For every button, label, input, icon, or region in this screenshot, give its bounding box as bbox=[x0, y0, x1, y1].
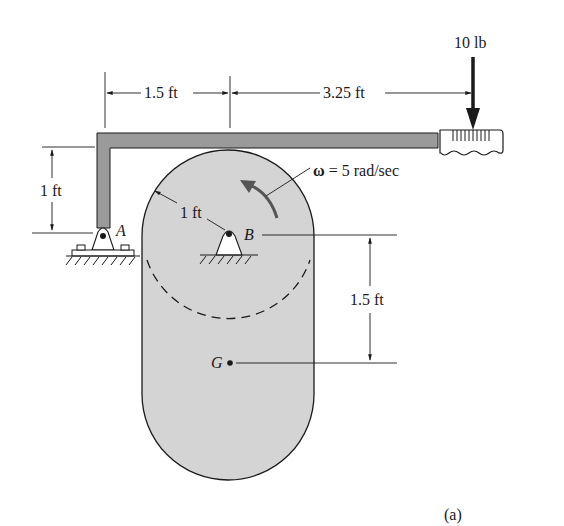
handle-grip bbox=[440, 130, 503, 155]
figure-caption: (a) bbox=[444, 506, 462, 524]
dim-top-left-label: 1.5 ft bbox=[144, 84, 178, 101]
omega-label: ω = 5 rad/sec bbox=[313, 162, 399, 179]
rotating-body bbox=[142, 150, 314, 480]
dim-right-label: 1.5 ft bbox=[350, 291, 384, 308]
pin-b-label: B bbox=[244, 226, 254, 243]
mechanism-diagram: 10 lb 1.5 ft 3.25 ft 1 ft bbox=[0, 0, 564, 526]
force-arrow bbox=[466, 57, 480, 130]
dim-top-right-label: 3.25 ft bbox=[323, 84, 365, 101]
pin-support-a bbox=[66, 228, 140, 265]
pin-a-label: A bbox=[115, 222, 126, 239]
dim-left-label: 1 ft bbox=[40, 182, 62, 199]
center-of-mass-dot bbox=[227, 360, 233, 366]
center-of-mass-label: G bbox=[211, 354, 223, 371]
radius-label: 1 ft bbox=[180, 204, 202, 221]
force-label: 10 lb bbox=[454, 34, 486, 51]
